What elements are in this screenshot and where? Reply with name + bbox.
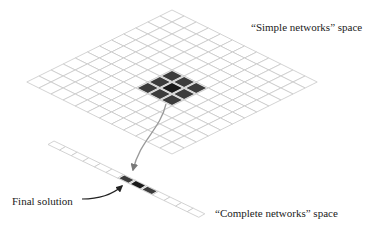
final-solution-label: Final solution: [12, 195, 73, 207]
simple-networks-space-label: “Simple networks” space: [251, 21, 362, 33]
final-solution-arrow: [82, 186, 122, 199]
complete-networks-space-label: “Complete networks” space: [215, 207, 338, 219]
